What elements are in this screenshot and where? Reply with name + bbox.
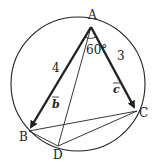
vector-b-label: b: [52, 98, 60, 111]
segment-BC: [29, 111, 137, 131]
angle-label: 60°: [86, 43, 107, 57]
point-label-D: D: [53, 148, 63, 162]
length-AB-label: 4: [52, 61, 60, 75]
vector-b-arrow: [31, 27, 91, 127]
angle-arc-A: [85, 37, 96, 39]
geometry-diagram: A B C D 60° 4 3 b c: [0, 0, 156, 166]
point-label-C: C: [139, 106, 148, 120]
segment-BD: [29, 131, 58, 146]
vector-c-label: c: [113, 83, 120, 96]
point-label-B: B: [19, 130, 28, 144]
point-label-A: A: [87, 8, 97, 22]
segment-DC: [58, 111, 137, 146]
length-AC-label: 3: [117, 49, 125, 63]
